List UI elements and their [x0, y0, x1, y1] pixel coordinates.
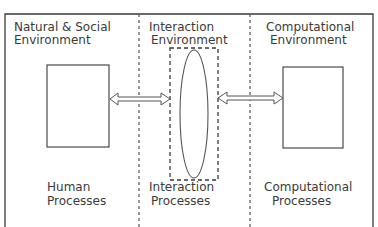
interaction-ellipse	[180, 50, 208, 178]
human-process-box	[47, 65, 109, 147]
interaction-env-title-1: Interaction	[149, 20, 214, 34]
human-processes-label-1: Human	[47, 180, 90, 194]
double-arrow-left	[110, 93, 170, 105]
computational-processes-label-1: Computational	[264, 180, 352, 194]
computational-processes-label-2: Processes	[272, 194, 331, 208]
interaction-env-title-2: Environment	[151, 33, 228, 47]
computational-env-title-1: Computational	[266, 20, 354, 34]
interaction-processes-label-2: Processes	[151, 194, 210, 208]
interaction-processes-label-1: Interaction	[149, 180, 214, 194]
interaction-dashed-box	[170, 48, 218, 180]
computational-env-title-2: Environment	[270, 33, 347, 47]
natural-env-title-1: Natural & Social	[14, 20, 111, 34]
computational-process-box	[283, 67, 343, 148]
natural-env-title-2: Environment	[14, 33, 91, 47]
human-processes-label-2: Processes	[47, 194, 106, 208]
diagram-canvas: Natural & Social Environment Interaction…	[0, 0, 378, 227]
